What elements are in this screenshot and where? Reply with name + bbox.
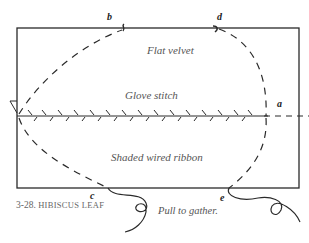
thread-knot-d-icon (213, 26, 217, 32)
lower-left-dashed-curve (19, 118, 108, 188)
region-label-glove-stitch: Glove stitch (125, 89, 178, 101)
lower-right-dashed-curve (229, 118, 266, 188)
point-label-e: e (220, 192, 224, 203)
upper-right-dashed-curve (219, 29, 266, 116)
point-label-a: a (277, 98, 282, 109)
figure-caption: 3-28. HIBISCUS LEAF (16, 200, 104, 210)
thread-knot-b-icon (123, 24, 124, 31)
thread-tail-e (228, 188, 300, 222)
region-label-shaded-wired-ribbon: Shaded wired ribbon (111, 151, 203, 163)
upper-left-dashed-curve (19, 30, 122, 114)
figure-number: 3-28. (16, 200, 36, 210)
figure-title: HIBISCUS LEAF (38, 200, 104, 210)
point-label-b: b (107, 11, 112, 22)
region-label-flat-velvet: Flat velvet (147, 44, 194, 56)
fold-marker-icon (10, 101, 17, 113)
point-label-d: d (217, 11, 222, 22)
thread-tail-c (108, 188, 147, 232)
instruction-pull-to-gather: Pull to gather. (158, 205, 218, 216)
